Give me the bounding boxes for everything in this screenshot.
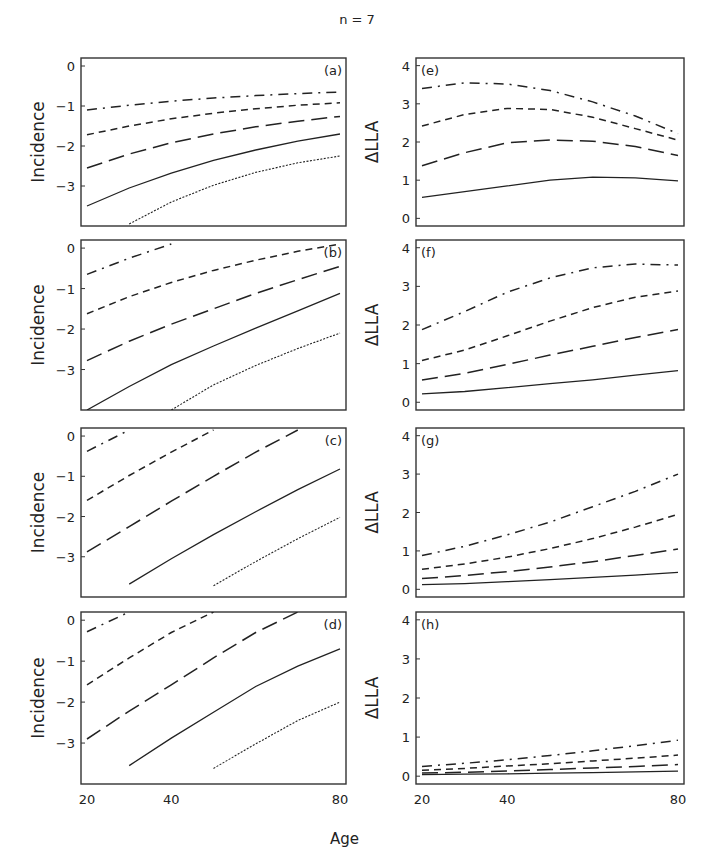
series-long-dash	[87, 612, 298, 739]
series-short-dash	[422, 514, 678, 569]
series-solid	[129, 649, 340, 766]
panel-c: 0−1−2−3Incidence(c)	[28, 428, 346, 597]
y-tick-label: 4	[402, 241, 410, 256]
panel-frame	[81, 58, 346, 226]
series-solid	[129, 469, 340, 584]
y-tick-label: 3	[402, 467, 410, 482]
y-tick-label: −2	[56, 510, 75, 525]
y-tick-label: −3	[56, 736, 75, 751]
y-tick-label: −2	[56, 322, 75, 337]
series-short-dash	[87, 430, 214, 500]
y-tick-label: 2	[402, 135, 410, 150]
series-dotted	[129, 156, 340, 224]
y-axis-label: ΔLLA	[362, 491, 382, 534]
y-tick-label: −1	[56, 654, 75, 669]
y-tick-label: 1	[402, 173, 410, 188]
y-tick-label: −3	[56, 363, 75, 378]
panel-b: 0−1−2−3Incidence(b)	[28, 240, 346, 410]
panel-a: 0−1−2−3Incidence(a)	[28, 58, 346, 226]
panel-tag: (f)	[421, 245, 436, 260]
y-tick-label: −1	[56, 282, 75, 297]
y-tick-label: 0	[67, 429, 75, 444]
series-long-dash	[87, 430, 298, 552]
series-short-dash	[87, 612, 214, 685]
panel-d: 0−1−2−3204080Incidence(d)	[28, 612, 348, 807]
y-axis-label: Incidence	[28, 472, 48, 554]
y-axis-label: Incidence	[28, 101, 48, 183]
y-tick-label: 2	[402, 318, 410, 333]
series-solid	[422, 177, 678, 197]
panel-f: 01234ΔLLA(f)	[362, 240, 684, 410]
panel-frame	[81, 428, 346, 597]
panel-tag: (a)	[324, 63, 342, 78]
y-tick-label: 3	[402, 652, 410, 667]
panel-tag: (b)	[324, 245, 342, 260]
y-axis-label: ΔLLA	[362, 303, 382, 346]
x-tick-label: 40	[163, 792, 180, 807]
figure-canvas: 0−1−2−3Incidence(a)0−1−2−3Incidence(b)0−…	[0, 0, 714, 860]
x-tick-label: 20	[79, 792, 96, 807]
series-dash-dot	[422, 83, 678, 134]
x-tick-label: 40	[499, 792, 516, 807]
x-axis-label: Age	[330, 830, 359, 848]
x-tick-label: 80	[332, 792, 349, 807]
series-short-dash	[422, 291, 678, 361]
y-tick-label: −2	[56, 695, 75, 710]
y-tick-label: −1	[56, 99, 75, 114]
series-dash-dot	[422, 264, 678, 330]
y-tick-label: 1	[402, 544, 410, 559]
series-solid	[422, 572, 678, 584]
panel-e: 01234ΔLLA(e)	[362, 58, 684, 226]
series-short-dash	[422, 755, 678, 770]
y-tick-label: 1	[402, 730, 410, 745]
panel-tag: (c)	[325, 433, 342, 448]
x-tick-label: 20	[414, 792, 431, 807]
y-tick-label: 0	[67, 59, 75, 74]
y-tick-label: 0	[67, 241, 75, 256]
panel-frame	[416, 58, 684, 226]
panel-frame	[416, 428, 684, 597]
panel-frame	[81, 612, 346, 784]
y-tick-label: 4	[402, 429, 410, 444]
y-tick-label: 4	[402, 613, 410, 628]
y-tick-label: 2	[402, 691, 410, 706]
y-axis-label: ΔLLA	[362, 676, 382, 719]
y-tick-label: 3	[402, 97, 410, 112]
y-tick-label: −1	[56, 469, 75, 484]
series-short-dash	[422, 108, 678, 140]
y-tick-label: 2	[402, 506, 410, 521]
series-dash-dot	[422, 474, 678, 555]
series-dotted	[214, 517, 341, 585]
y-tick-label: 0	[67, 613, 75, 628]
series-dash-dot	[87, 612, 129, 632]
panel-h: 01234204080ΔLLA(h)	[362, 612, 686, 807]
y-tick-label: −3	[56, 550, 75, 565]
series-short-dash	[87, 103, 340, 135]
y-axis-label: Incidence	[28, 657, 48, 739]
series-dash-dot	[87, 244, 171, 274]
y-axis-label: ΔLLA	[362, 120, 382, 163]
y-axis-label: Incidence	[28, 284, 48, 366]
panel-g: 01234ΔLLA(g)	[362, 428, 684, 597]
y-tick-label: 0	[402, 395, 410, 410]
y-tick-label: 0	[402, 211, 410, 226]
panel-frame	[416, 240, 684, 410]
y-tick-label: 1	[402, 357, 410, 372]
series-long-dash	[422, 140, 678, 166]
y-tick-label: 3	[402, 279, 410, 294]
panel-tag: (e)	[421, 63, 439, 78]
series-solid	[87, 134, 340, 206]
series-dash-dot	[422, 740, 678, 766]
y-tick-label: −3	[56, 179, 75, 194]
series-long-dash	[422, 330, 678, 380]
y-tick-label: 0	[402, 582, 410, 597]
panel-tag: (h)	[421, 617, 439, 632]
x-tick-label: 80	[670, 792, 687, 807]
y-tick-label: 0	[402, 769, 410, 784]
panel-tag: (g)	[421, 433, 439, 448]
series-dash-dot	[87, 92, 340, 110]
y-tick-label: −2	[56, 139, 75, 154]
series-dash-dot	[87, 430, 129, 451]
panel-tag: (d)	[324, 617, 342, 632]
series-dotted	[171, 333, 340, 410]
